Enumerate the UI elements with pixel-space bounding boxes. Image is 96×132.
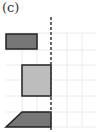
dark-rectangle (6, 34, 37, 49)
diagram-canvas (0, 0, 96, 132)
light-rectangle (22, 65, 51, 96)
dark-trapezoid (6, 112, 51, 127)
